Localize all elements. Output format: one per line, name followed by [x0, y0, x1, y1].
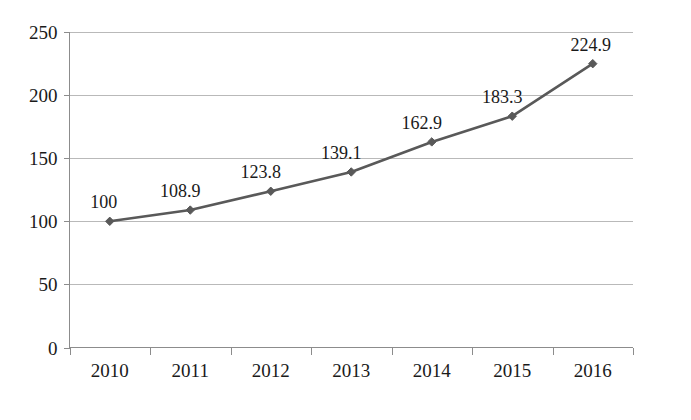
x-axis-tick-label: 2012 — [252, 360, 290, 381]
x-axis-tick-label: 2011 — [172, 360, 209, 381]
chart-canvas: 050100150200250 201020112012201320142015… — [0, 0, 691, 420]
x-axis-tick-label: 2016 — [574, 360, 612, 381]
data-point-marker — [186, 206, 194, 214]
x-axis-tick-label: 2010 — [91, 360, 129, 381]
x-axis-tick-labels-group: 2010201120122013201420152016 — [91, 360, 612, 381]
data-point-label: 123.8 — [241, 162, 282, 182]
x-axis-tick-label: 2013 — [332, 360, 370, 381]
data-point-label: 139.1 — [321, 143, 362, 163]
y-axis-tick-labels-group: 050100150200250 — [29, 22, 58, 359]
data-point-marker — [428, 138, 436, 146]
line-chart: 050100150200250 201020112012201320142015… — [0, 0, 691, 420]
x-axis-tick-label: 2015 — [493, 360, 531, 381]
y-axis-tick-label: 0 — [48, 338, 58, 359]
data-point-marker — [267, 187, 275, 195]
data-point-marker — [106, 217, 114, 225]
y-axis-tick-label: 100 — [29, 211, 58, 232]
y-axis-tick-label: 150 — [29, 148, 58, 169]
data-point-label: 108.9 — [160, 181, 201, 201]
y-axis-tick-label: 200 — [29, 85, 58, 106]
data-point-label: 100 — [90, 192, 117, 212]
x-axis-ticks-group — [71, 348, 634, 355]
y-axis-tick-label: 250 — [29, 22, 58, 43]
y-axis-tick-label: 50 — [39, 274, 58, 295]
data-point-label: 162.9 — [402, 113, 443, 133]
axes-group — [69, 32, 633, 348]
data-point-label: 224.9 — [571, 35, 612, 55]
y-axis-ticks-group — [64, 33, 70, 349]
data-point-marker — [347, 168, 355, 176]
data-labels-group: 100108.9123.8139.1162.9183.3224.9 — [90, 35, 611, 213]
data-point-label: 183.3 — [482, 87, 523, 107]
x-axis-tick-label: 2014 — [413, 360, 452, 381]
